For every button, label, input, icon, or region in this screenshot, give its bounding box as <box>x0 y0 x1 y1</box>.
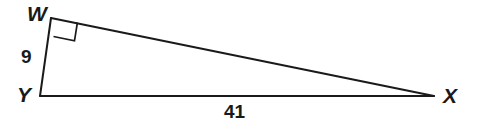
geometry-figure: W Y X 9 41 <box>0 0 478 129</box>
vertex-label-x: X <box>443 85 457 106</box>
segment-wx <box>51 18 434 96</box>
right-angle-marker-icon <box>54 23 78 41</box>
vertex-label-w: W <box>27 3 47 24</box>
side-length-label-yx: 41 <box>224 102 245 121</box>
side-length-label-wy: 9 <box>21 47 32 66</box>
vertex-label-y: Y <box>17 84 31 105</box>
segment-wy <box>40 18 51 96</box>
